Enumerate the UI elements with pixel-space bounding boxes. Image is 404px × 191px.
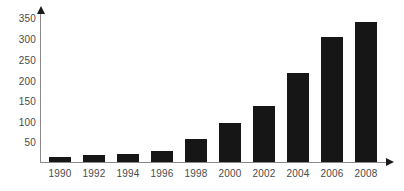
bar-2000: [219, 123, 241, 162]
bar-2006: [321, 37, 343, 162]
y-axis-tick-label: 100: [6, 118, 36, 128]
x-axis-line: [40, 162, 389, 163]
bar-1994: [117, 154, 139, 162]
bar-2002: [253, 106, 275, 162]
y-axis-line: [40, 12, 41, 163]
bar-1992: [83, 155, 105, 162]
y-axis-tick-label: 150: [6, 97, 36, 107]
bar-2004: [287, 73, 309, 162]
x-axis-tick-label: 2008: [346, 168, 386, 180]
bar-1998: [185, 139, 207, 162]
y-axis-tick-label: 50: [6, 138, 36, 148]
bar-chart: 350 300 250 200 150 100 50 1990 1992 199…: [0, 0, 404, 191]
bar-2008: [355, 22, 377, 162]
y-axis-arrow-up-icon: [37, 6, 45, 14]
y-axis-tick-label: 250: [6, 56, 36, 66]
x-axis-arrow-right-icon: [386, 158, 394, 166]
bar-1990: [49, 157, 71, 162]
y-axis-tick-label: 300: [6, 35, 36, 45]
y-axis-tick-label: 200: [6, 77, 36, 87]
y-axis-tick-label: 350: [6, 14, 36, 24]
bar-1996: [151, 151, 173, 162]
